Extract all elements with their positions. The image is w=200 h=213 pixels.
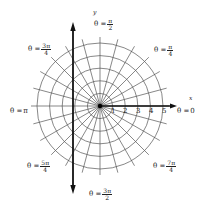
label-theta-3pi-over-4: θ = 3π 4 — [28, 43, 51, 56]
x-axis-arrow-icon — [170, 104, 177, 109]
label-theta-pi-over-2: θ = π 2 — [94, 18, 113, 31]
theta-fraction: 3π 2 — [102, 188, 112, 201]
grid-ray — [40, 72, 100, 107]
pole-point — [98, 104, 102, 108]
theta-prefix: θ = — [28, 46, 40, 53]
y-axis-down-arrow-icon — [70, 185, 75, 194]
grid-ray — [33, 88, 100, 106]
y-axis-up-arrow-icon — [70, 22, 75, 31]
label-theta-5pi-over-4: θ = 5π 4 — [27, 160, 50, 173]
fraction-denominator: 2 — [104, 195, 110, 201]
tick-4: 4 — [149, 108, 153, 115]
theta-fraction: 5π 4 — [40, 160, 50, 173]
tick-1: 1 — [111, 108, 115, 115]
grid-ray — [40, 106, 100, 141]
theta-fraction: 7π 4 — [166, 160, 176, 173]
tick-3: 3 — [136, 108, 140, 115]
fraction-denominator: 2 — [107, 25, 113, 31]
theta-value: 0 — [190, 108, 194, 115]
theta-value: π — [23, 108, 28, 115]
grid-ray — [100, 39, 118, 106]
grid-ray — [82, 106, 100, 173]
x-axis-label: x — [189, 94, 192, 101]
grid-ray — [100, 106, 118, 173]
theta-prefix: θ = — [153, 163, 165, 170]
grid-ray — [66, 106, 101, 166]
label-theta-0: θ = 0 — [177, 108, 195, 115]
theta-prefix: θ = — [27, 163, 39, 170]
theta-prefix: θ = — [94, 21, 106, 28]
theta-fraction: 3π 4 — [41, 43, 51, 56]
label-theta-pi-over-4: θ = π 4 — [154, 44, 173, 57]
grid-ray — [100, 46, 135, 106]
fraction-denominator: 4 — [168, 167, 174, 173]
grid-ray — [100, 88, 167, 106]
theta-fraction: π 2 — [107, 18, 113, 31]
polar-grid — [0, 0, 200, 213]
theta-fraction: π 4 — [167, 44, 173, 57]
tick-2: 2 — [123, 108, 127, 115]
fraction-denominator: 4 — [43, 50, 49, 56]
label-theta-pi: θ = π — [10, 108, 28, 115]
theta-prefix: θ = — [154, 47, 166, 54]
theta-prefix: θ = — [177, 108, 189, 115]
grid-ray — [100, 72, 160, 107]
grid-ray — [33, 106, 100, 124]
label-theta-7pi-over-4: θ = 7π 4 — [153, 160, 176, 173]
label-theta-3pi-over-2: θ = 3π 2 — [89, 188, 112, 201]
grid-ray — [82, 39, 100, 106]
tick-5: 5 — [162, 108, 166, 115]
theta-prefix: θ = — [10, 108, 22, 115]
grid-ray — [66, 46, 101, 106]
grid-ray — [100, 106, 135, 166]
fraction-denominator: 4 — [167, 51, 173, 57]
grid-ray — [100, 106, 167, 124]
fraction-denominator: 4 — [42, 167, 48, 173]
polar-grid-diagram: y x 1 2 3 4 5 θ = 0 θ = π 2 θ = π 4 θ = … — [0, 0, 200, 213]
y-axis-label: y — [93, 8, 96, 15]
theta-prefix: θ = — [89, 191, 101, 198]
